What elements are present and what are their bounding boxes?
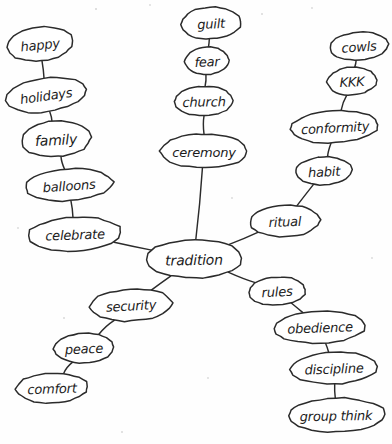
node-label-habit: habit [308, 164, 342, 181]
node-peace[interactable]: peace [53, 332, 115, 364]
edge-peace-to-comfort [64, 362, 73, 373]
node-fear[interactable]: fear [184, 46, 230, 75]
mindmap-svg: happyholidaysfamilyballoonscelebrateguil… [0, 0, 392, 444]
edge-kkk-to-conformity [341, 95, 347, 111]
node-happy[interactable]: happy [5, 24, 74, 65]
paper-speck [207, 377, 209, 379]
edge-habit-to-ritual [297, 184, 314, 205]
edge-guilt-to-fear [208, 39, 209, 47]
edge-ritual-to-tradition [228, 232, 258, 245]
paper-speck [63, 317, 65, 319]
node-label-kkk: KKK [339, 74, 366, 90]
node-label-tradition: tradition [165, 251, 223, 268]
node-balloons[interactable]: balloons [25, 166, 115, 204]
node-label-security: security [106, 297, 158, 315]
node-label-rules: rules [261, 284, 293, 301]
node-obedience[interactable]: obedience [274, 310, 366, 345]
node-label-guilt: guilt [197, 16, 227, 32]
mindmap-canvas: happyholidaysfamilyballoonscelebrateguil… [0, 0, 392, 444]
paper-speck [149, 4, 151, 6]
edge-fear-to-church [205, 75, 206, 86]
paper-speck [231, 197, 233, 199]
node-habit[interactable]: habit [295, 155, 353, 186]
node-label-obedience: obedience [287, 319, 353, 336]
node-family[interactable]: family [21, 119, 92, 158]
node-label-ritual: ritual [268, 214, 302, 230]
node-rules[interactable]: rules [248, 276, 306, 306]
paper-speck [121, 431, 123, 433]
paper-speck [311, 7, 313, 9]
edge-discipline-to-groupthink [335, 384, 336, 398]
edge-conformity-to-habit [328, 143, 331, 157]
node-label-comfort: comfort [27, 381, 78, 398]
nodes-layer: happyholidaysfamilyballoonscelebrateguil… [3, 6, 390, 433]
paper-speck [17, 227, 19, 229]
edge-tradition-to-rules [228, 272, 255, 282]
node-label-ceremony: ceremony [172, 145, 236, 160]
node-label-church: church [182, 94, 225, 110]
node-conformity[interactable]: conformity [289, 108, 378, 145]
edge-family-to-balloons [61, 157, 65, 170]
edge-happy-to-holidays [42, 61, 44, 78]
node-ritual[interactable]: ritual [250, 204, 321, 238]
node-tradition[interactable]: tradition [146, 239, 242, 279]
edge-tradition-to-security [151, 276, 170, 290]
edge-holidays-to-family [50, 112, 52, 122]
node-label-cowls: cowls [341, 38, 378, 55]
edge-security-to-peace [99, 320, 115, 334]
node-label-family: family [35, 131, 79, 149]
edge-balloons-to-celebrate [71, 201, 73, 217]
node-ceremony[interactable]: ceremony [159, 134, 246, 167]
node-security[interactable]: security [88, 287, 173, 323]
node-church[interactable]: church [174, 86, 233, 116]
edge-ceremony-to-tradition [196, 168, 203, 240]
node-label-fear: fear [194, 54, 221, 70]
node-guilt[interactable]: guilt [180, 6, 241, 41]
node-label-peace: peace [64, 341, 104, 357]
node-discipline[interactable]: discipline [289, 351, 378, 386]
node-kkk[interactable]: KKK [326, 66, 378, 96]
node-label-celebrate: celebrate [45, 226, 105, 243]
paper-speck [371, 257, 373, 259]
node-celebrate[interactable]: celebrate [28, 216, 121, 253]
node-cowls[interactable]: cowls [329, 30, 389, 62]
node-groupthink[interactable]: group think [288, 397, 385, 433]
edge-rules-to-obedience [291, 303, 303, 313]
node-label-groupthink: group think [300, 408, 374, 424]
edge-celebrate-to-tradition [114, 242, 151, 250]
edge-obedience-to-discipline [325, 343, 328, 353]
paper-speck [95, 8, 97, 10]
node-comfort[interactable]: comfort [15, 372, 88, 404]
edge-cowls-to-kkk [355, 60, 356, 67]
node-holidays[interactable]: holidays [3, 73, 89, 118]
edge-church-to-ceremony [203, 116, 204, 134]
paper-speck [261, 13, 263, 15]
node-label-discipline: discipline [304, 360, 364, 377]
